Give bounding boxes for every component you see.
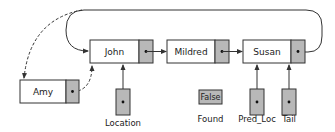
var-tail: Tail xyxy=(281,65,296,124)
node-john: John xyxy=(90,40,153,63)
pointer-dot xyxy=(288,101,291,104)
var-pred-loc-label: Pred_Loc xyxy=(238,114,276,124)
pointer-dot xyxy=(122,101,125,104)
var-found: False Found xyxy=(198,90,224,124)
var-found-value: False xyxy=(200,93,220,102)
node-susan-label: Susan xyxy=(253,47,280,57)
node-amy-label: Amy xyxy=(33,87,54,97)
linked-list-diagram: John Mildred Susan Amy Location False Fo… xyxy=(0,0,335,132)
pointer-dot xyxy=(71,90,74,93)
node-amy: Amy xyxy=(20,80,79,103)
var-location: Location xyxy=(105,65,141,128)
edge-dashed-to-amy xyxy=(24,10,82,78)
var-tail-label: Tail xyxy=(281,114,296,124)
node-susan: Susan xyxy=(243,40,305,63)
var-location-label: Location xyxy=(105,118,141,128)
pointer-dot xyxy=(256,101,259,104)
node-mildred-label: Mildred xyxy=(174,47,207,57)
pointer-dot xyxy=(297,50,300,53)
var-pred-loc: Pred_Loc xyxy=(238,65,276,124)
var-found-label: Found xyxy=(198,114,224,124)
node-mildred: Mildred xyxy=(167,40,229,63)
node-john-label: John xyxy=(104,47,125,57)
